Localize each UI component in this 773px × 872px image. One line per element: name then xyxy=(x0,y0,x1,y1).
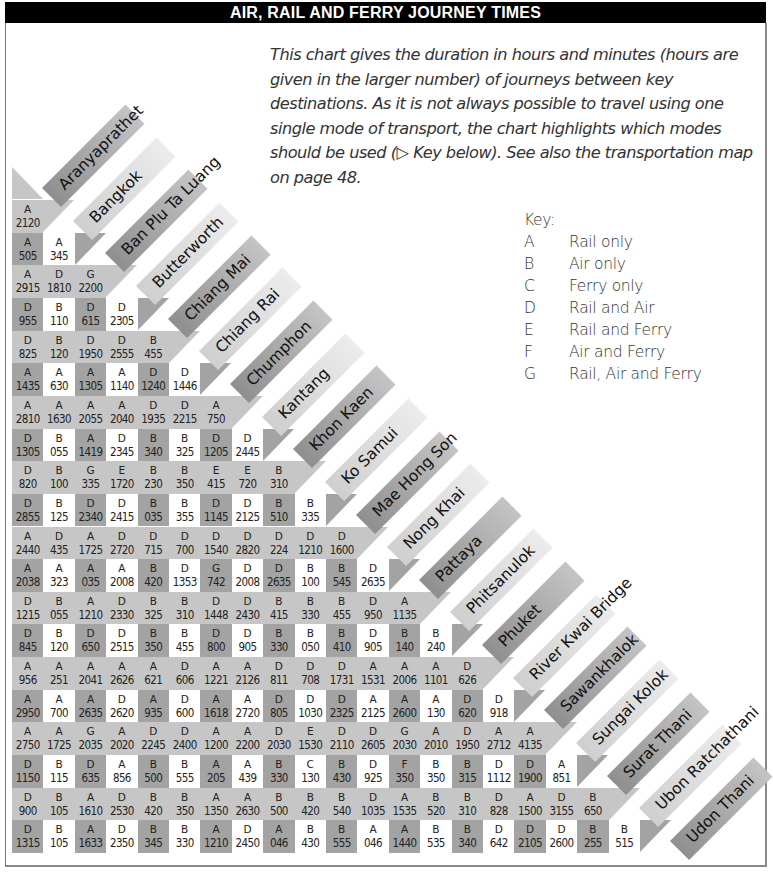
mode-code: D xyxy=(263,527,294,543)
journey-time: 2855 xyxy=(12,510,43,524)
journey-time: 230 xyxy=(138,477,169,491)
table-cell: D1446 xyxy=(169,363,200,396)
mode-code: D xyxy=(263,657,294,673)
journey-time: 323 xyxy=(43,575,74,589)
table-cell: D1112 xyxy=(483,755,514,788)
table-cell: D2340 xyxy=(75,494,106,527)
journey-time: 2020 xyxy=(106,738,137,752)
journey-time: 310 xyxy=(452,804,483,818)
table-cell: A2626 xyxy=(106,657,137,690)
journey-time: 956 xyxy=(12,673,43,687)
table-cell: B100 xyxy=(43,461,74,494)
table-cell: D1731 xyxy=(326,657,357,690)
mode-code: G xyxy=(75,265,106,281)
mode-code: D xyxy=(12,820,43,836)
mode-code: D xyxy=(263,722,294,738)
diagonal-edge xyxy=(483,657,514,689)
table-cell: C130 xyxy=(295,755,326,788)
journey-time: 1610 xyxy=(75,804,106,818)
table-row: D1150B115D635A856B500B555A205A439B330C13… xyxy=(12,755,577,788)
mode-code: A xyxy=(389,592,420,608)
table-cell: D1215 xyxy=(12,592,43,625)
table-cell: D2620 xyxy=(106,690,137,723)
table-cell: A1435 xyxy=(12,363,43,396)
table-cell: A1350 xyxy=(200,788,231,821)
journey-time: 2555 xyxy=(106,347,137,361)
table-cell: D1810 xyxy=(43,265,74,298)
key-title: Key: xyxy=(524,209,702,231)
journey-time: 2820 xyxy=(232,543,263,557)
journey-time: 2120 xyxy=(12,216,43,230)
journey-time: 1618 xyxy=(200,706,231,720)
mode-code: B xyxy=(420,820,451,836)
mode-code: B xyxy=(43,429,74,445)
journey-time: 2635 xyxy=(75,706,106,720)
table-cell: A1221 xyxy=(200,657,231,690)
journey-time: 240 xyxy=(420,640,451,654)
mode-code: D xyxy=(138,722,169,738)
mode-code: D xyxy=(263,690,294,706)
mode-code: A xyxy=(263,820,294,836)
diagonal-edge xyxy=(389,559,420,591)
journey-time: 1101 xyxy=(420,673,451,687)
mode-code: D xyxy=(106,527,137,543)
journey-time: 325 xyxy=(138,608,169,622)
mode-code: D xyxy=(169,396,200,412)
mode-code: D xyxy=(106,788,137,804)
journey-time: 1950 xyxy=(75,347,106,361)
journey-time: 800 xyxy=(200,640,231,654)
journey-time: 510 xyxy=(263,510,294,524)
table-cell: D2635 xyxy=(357,559,388,592)
journey-time: 555 xyxy=(169,771,200,785)
mode-code: A xyxy=(138,657,169,673)
mode-code: B xyxy=(452,788,483,804)
journey-time: 335 xyxy=(295,510,326,524)
mode-code: B xyxy=(609,820,640,836)
mode-code: A xyxy=(75,527,106,543)
table-cell: A2120 xyxy=(12,200,43,233)
journey-time: 1540 xyxy=(200,543,231,557)
mode-code: G xyxy=(75,461,106,477)
table-cell: D615 xyxy=(75,298,106,331)
journey-time: 520 xyxy=(420,804,451,818)
mode-code: G xyxy=(75,722,106,738)
mode-code: D xyxy=(169,722,200,738)
table-cell: A856 xyxy=(106,755,137,788)
mode-code: D xyxy=(483,690,514,706)
table-cell: B430 xyxy=(295,820,326,853)
mode-code: D xyxy=(75,494,106,510)
table-row: A2915D1810G2200 xyxy=(12,265,106,298)
table-row: A956A251A2041A2626A621D606A1221A2126D811… xyxy=(12,657,483,690)
journey-time: 2950 xyxy=(12,706,43,720)
mode-code: D xyxy=(514,755,545,771)
journey-time: 545 xyxy=(326,575,357,589)
diagonal-edge xyxy=(546,722,577,754)
table-row: D900B105A1610D2530B420B350A1350A2630B500… xyxy=(12,788,609,821)
mode-code: D xyxy=(106,624,137,640)
key-item: FAir and Ferry xyxy=(524,341,702,363)
diagonal-edge xyxy=(577,755,608,787)
table-cell: A1140 xyxy=(106,363,137,396)
mode-code: A xyxy=(12,233,43,249)
journey-time: 1810 xyxy=(43,281,74,295)
table-cell: D2515 xyxy=(106,624,137,657)
journey-time: 1530 xyxy=(295,738,326,752)
mode-code: D xyxy=(295,657,326,673)
journey-time: 2635 xyxy=(357,575,388,589)
key-item: BAir only xyxy=(524,253,702,275)
table-cell: D2530 xyxy=(106,788,137,821)
table-row: D1315B105A1633D2350B345B330A1210D2450A04… xyxy=(12,820,640,853)
journey-time: 621 xyxy=(138,673,169,687)
mode-code: B xyxy=(169,820,200,836)
mode-code: B xyxy=(326,755,357,771)
mode-code: A xyxy=(75,657,106,673)
mode-code: D xyxy=(483,788,514,804)
journey-time: 1240 xyxy=(138,379,169,393)
mode-code: D xyxy=(75,331,106,347)
table-row: A505A345 xyxy=(12,233,75,266)
journey-time: 055 xyxy=(43,445,74,459)
mode-code: B xyxy=(295,494,326,510)
mode-code: B xyxy=(169,429,200,445)
journey-time: 1145 xyxy=(200,510,231,524)
journey-time: 1531 xyxy=(357,673,388,687)
